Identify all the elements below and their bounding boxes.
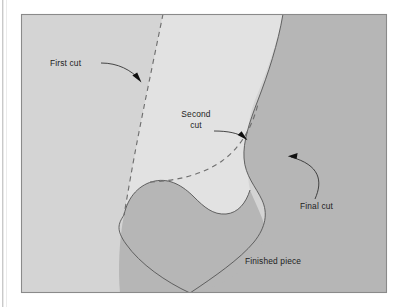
cutting-diagram-svg: First cut Second cut Final cut Finished … [0, 0, 402, 307]
annotation-finished-piece: Finished piece [245, 256, 301, 266]
left-margin-rule-secondary [6, 0, 7, 307]
figure-root: First cut Second cut Final cut Finished … [0, 0, 402, 307]
second-cut-label-line1: Second [181, 109, 210, 119]
final-cut-label: Final cut [300, 201, 334, 211]
second-cut-label-line2: cut [190, 120, 202, 130]
diagram-content [21, 14, 387, 293]
left-margin-rule [2, 0, 3, 307]
first-cut-label: First cut [50, 58, 82, 68]
finished-piece-label: Finished piece [245, 256, 301, 266]
